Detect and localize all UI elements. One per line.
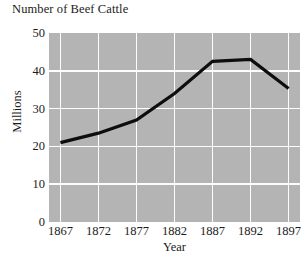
plot-area xyxy=(49,33,300,222)
y-axis-tick-labels: 01020304050 xyxy=(0,33,45,222)
y-tick-label-30: 30 xyxy=(1,103,45,115)
data-series-line xyxy=(49,33,300,222)
y-tick-label-20: 20 xyxy=(1,140,45,152)
x-tick-label-1897: 1897 xyxy=(266,224,308,238)
y-tick-label-10: 10 xyxy=(1,178,45,190)
y-tick-label-50: 50 xyxy=(1,27,45,39)
chart-title: Number of Beef Cattle xyxy=(12,2,128,17)
x-axis-title: Year xyxy=(49,240,300,255)
chart-figure: Number of Beef Cattle Millions 010203040… xyxy=(0,0,308,266)
y-tick-label-40: 40 xyxy=(1,65,45,77)
